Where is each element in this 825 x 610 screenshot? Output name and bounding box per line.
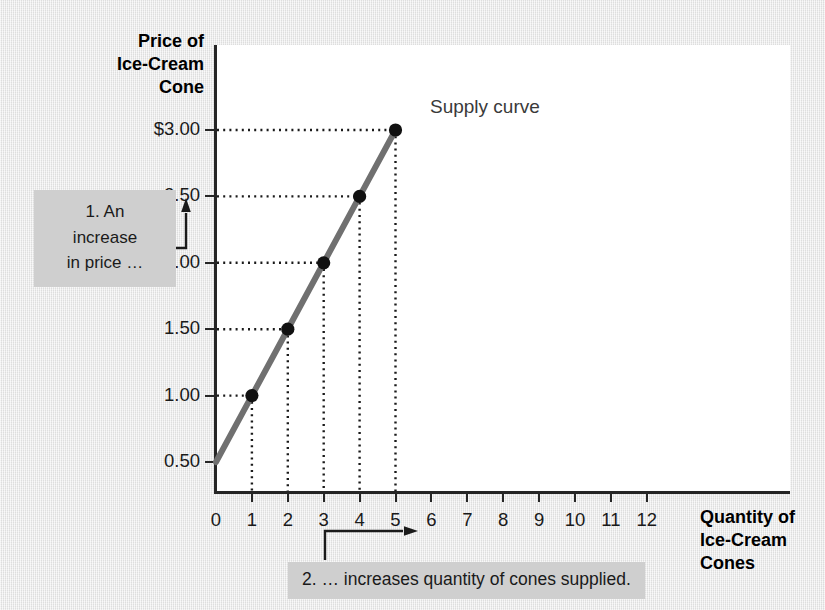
y-tick-2.00 [205,262,216,264]
x-tick-label-11: 11 [596,509,626,531]
y-axis-title: Price of Ice-Cream Cone [92,30,204,99]
y-axis-title-line-3: Cone [92,76,204,99]
y-tick-label-0.50: 0.50 [128,450,200,472]
annotation-1-line-2: increase [44,225,166,251]
y-axis-title-line-2: Ice-Cream [92,53,204,76]
annotation-price-increase: 1. An increase in price … [34,190,176,287]
x-tick-8 [502,492,504,502]
annotation-quantity-increase: 2. … increases quantity of cones supplie… [288,562,645,599]
x-tick-label-10: 10 [560,509,590,531]
x-tick-3 [323,492,325,502]
y-tick-label-$3.00: $3.00 [128,118,200,140]
y-axis-title-line-1: Price of [92,30,204,53]
x-tick-label-1: 1 [237,509,267,531]
x-tick-label-0: 0 [201,509,231,531]
x-tick-label-6: 6 [416,509,446,531]
x-tick-6 [430,492,432,502]
y-tick-1.50 [205,328,216,330]
x-tick-10 [574,492,576,502]
x-axis-title: Quantity of Ice-Cream Cones [700,506,820,575]
x-tick-label-5: 5 [381,509,411,531]
x-tick-12 [646,492,648,502]
x-tick-9 [538,492,540,502]
x-axis-title-line-2: Ice-Cream Cones [700,529,820,575]
x-tick-7 [466,492,468,502]
y-tick-2.50 [205,195,216,197]
x-tick-11 [610,492,612,502]
y-tick-$3.00 [205,129,216,131]
x-tick-2 [287,492,289,502]
x-tick-5 [395,492,397,502]
y-axis-line [214,45,217,494]
y-tick-1.00 [205,395,216,397]
x-tick-4 [359,492,361,502]
x-tick-1 [251,492,253,502]
x-tick-label-4: 4 [345,509,375,531]
supply-curve-label: Supply curve [430,96,540,118]
annotation-1-line-3: in price … [44,250,166,276]
x-tick-label-12: 12 [632,509,662,531]
x-tick-label-8: 8 [488,509,518,531]
annotation-1-line-1: 1. An [44,199,166,225]
x-axis-title-line-1: Quantity of [700,506,820,529]
x-tick-label-3: 3 [309,509,339,531]
x-tick-label-7: 7 [452,509,482,531]
y-tick-label-1.00: 1.00 [128,384,200,406]
supply-curve-figure: Price of Ice-Cream Cone Quantity of Ice-… [0,0,825,610]
x-tick-label-2: 2 [273,509,303,531]
y-tick-label-1.50: 1.50 [128,317,200,339]
y-tick-0.50 [205,461,216,463]
x-tick-label-9: 9 [524,509,554,531]
